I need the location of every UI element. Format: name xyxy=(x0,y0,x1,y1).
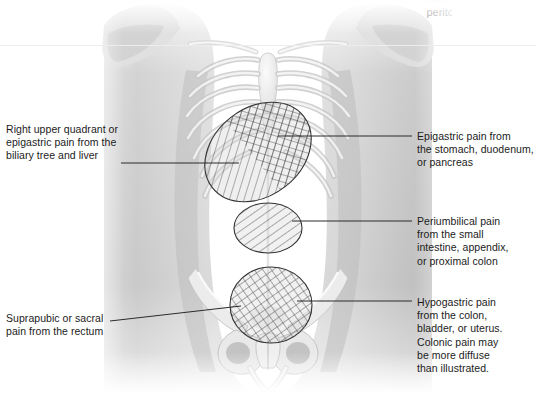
label-epigastric: Epigastric pain from the stomach, duoden… xyxy=(417,130,535,170)
label-hypogastric: Hypogastric pain from the colon, bladder… xyxy=(417,296,535,375)
abdominal-pain-regions-figure: muscle of the peritoneum xyxy=(0,0,536,394)
label-right-upper-quadrant: Right upper quadrant or epigastric pain … xyxy=(6,123,156,163)
label-periumbilical: Periumbilical pain from the small intest… xyxy=(417,215,535,268)
label-suprapubic: Suprapubic or sacral pain from the rectu… xyxy=(6,312,156,338)
